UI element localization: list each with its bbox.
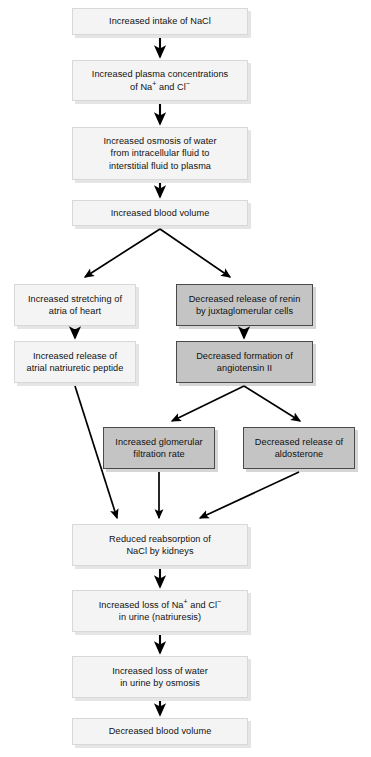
edge-angiotensin-to-aldosterone xyxy=(244,386,300,421)
node-label: Increased stretching of atria of heart xyxy=(19,293,131,317)
node-decreased-release-aldosterone: Decreased release of aldosterone xyxy=(243,427,355,469)
node-increased-intake-nacl: Increased intake of NaCl xyxy=(72,8,248,35)
node-increased-glomerular-filtration-rate: Increased glomerular filtration rate xyxy=(103,427,215,469)
node-label: Increased glomerular filtration rate xyxy=(108,436,210,460)
node-decreased-blood-volume: Decreased blood volume xyxy=(72,718,248,745)
node-label: Increased loss of water in urine by osmo… xyxy=(77,665,243,689)
node-label: Decreased release of aldosterone xyxy=(248,436,350,460)
node-label: Increased release of atrial natriuretic … xyxy=(19,350,131,374)
node-increased-blood-volume: Increased blood volume xyxy=(72,200,248,226)
node-label: Reduced reabsorption of NaCl by kidneys xyxy=(77,533,243,557)
node-increased-loss-na-cl-urine: Increased loss of Na+ and Cl−in urine (n… xyxy=(72,590,248,632)
node-increased-osmosis-water: Increased osmosis of water from intracel… xyxy=(72,127,248,180)
node-label: Decreased formation of angiotensin II xyxy=(181,350,308,374)
node-increased-stretching-atria: Increased stretching of atria of heart xyxy=(14,284,136,326)
edge-aldosterone-to-reabsorption xyxy=(200,472,299,518)
node-decreased-formation-angiotensin: Decreased formation of angiotensin II xyxy=(176,341,313,383)
node-increased-loss-water-urine: Increased loss of water in urine by osmo… xyxy=(72,656,248,698)
flowchart-canvas: Increased intake of NaCl Increased plasm… xyxy=(0,0,371,757)
node-increased-release-anp: Increased release of atrial natriuretic … xyxy=(14,341,136,383)
node-decreased-release-renin: Decreased release of renin by juxtaglome… xyxy=(176,284,313,326)
edge-angiotensin-to-gfr xyxy=(172,386,244,421)
edge-blood-volume-to-renin xyxy=(160,229,230,277)
node-label: Decreased blood volume xyxy=(77,725,243,737)
node-label: Increased loss of Na+ and Cl−in urine (n… xyxy=(77,599,243,623)
node-label: Increased blood volume xyxy=(77,207,243,219)
node-reduced-reabsorption-nacl: Reduced reabsorption of NaCl by kidneys xyxy=(72,524,248,566)
node-label: Increased osmosis of water from intracel… xyxy=(77,135,243,172)
node-label: Decreased release of renin by juxtaglome… xyxy=(181,293,308,317)
edge-blood-volume-to-stretching xyxy=(85,229,160,277)
node-increased-plasma-concentrations: Increased plasma concentrationsof Na+ an… xyxy=(72,60,248,101)
node-label: Increased intake of NaCl xyxy=(77,15,243,27)
node-label: Increased plasma concentrationsof Na+ an… xyxy=(77,68,243,92)
